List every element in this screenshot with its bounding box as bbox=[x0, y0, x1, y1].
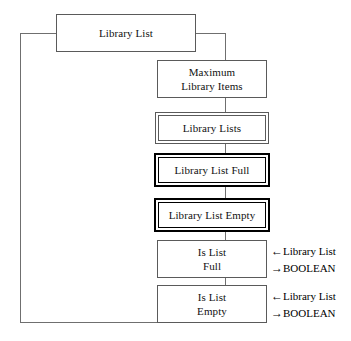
node-inner-frame: Library List Empty bbox=[158, 202, 266, 228]
node-label-line2: Empty bbox=[197, 304, 227, 318]
annotation-output-label: BOOLEAN bbox=[283, 262, 336, 274]
annotation-output-label: BOOLEAN bbox=[283, 307, 336, 319]
annotation-input-label: Library List bbox=[283, 245, 336, 257]
annotation-input-row: ←Library List bbox=[271, 288, 336, 305]
node-label-line1: Library List Full bbox=[174, 163, 249, 177]
connector-left-stub bbox=[20, 33, 57, 34]
node-label-line2: Full bbox=[203, 259, 221, 273]
node-is-list-full[interactable]: Is List Full bbox=[157, 240, 267, 278]
left-arrow-icon: ← bbox=[271, 243, 283, 260]
node-library-lists[interactable]: Library Lists bbox=[155, 112, 269, 144]
node-inner-frame: Library List Full bbox=[158, 157, 266, 183]
node-library-list-full[interactable]: Library List Full bbox=[154, 153, 270, 187]
node-label-line1: Maximum bbox=[189, 65, 236, 79]
node-is-list-empty[interactable]: Is List Empty bbox=[157, 285, 267, 323]
node-maximum-library-items[interactable]: Maximum Library Items bbox=[157, 60, 267, 98]
annotation-output-row: →BOOLEAN bbox=[271, 260, 336, 277]
node-label-line1: Library List bbox=[99, 26, 153, 40]
connector-right-stub bbox=[196, 33, 226, 34]
node-label-line1: Library List Empty bbox=[169, 208, 256, 222]
annotation-is-list-empty: ←Library List →BOOLEAN bbox=[271, 288, 336, 322]
node-library-list[interactable]: Library List bbox=[56, 14, 196, 52]
node-label-line1: Library Lists bbox=[183, 121, 241, 135]
node-library-list-empty[interactable]: Library List Empty bbox=[154, 198, 270, 232]
annotation-output-row: →BOOLEAN bbox=[271, 305, 336, 322]
annotation-input-label: Library List bbox=[283, 290, 336, 302]
right-arrow-icon: → bbox=[271, 260, 283, 277]
node-label-line2: Library Items bbox=[181, 79, 242, 93]
diagram-canvas: Library List Maximum Library Items Libra… bbox=[0, 0, 351, 341]
connector-left-rail bbox=[20, 33, 21, 323]
left-arrow-icon: ← bbox=[271, 288, 283, 305]
node-inner-frame: Library Lists bbox=[158, 115, 266, 141]
annotation-input-row: ←Library List bbox=[271, 243, 336, 260]
node-label-line1: Is List bbox=[198, 245, 227, 259]
annotation-is-list-full: ←Library List →BOOLEAN bbox=[271, 243, 336, 277]
node-label-line1: Is List bbox=[198, 290, 227, 304]
right-arrow-icon: → bbox=[271, 305, 283, 322]
